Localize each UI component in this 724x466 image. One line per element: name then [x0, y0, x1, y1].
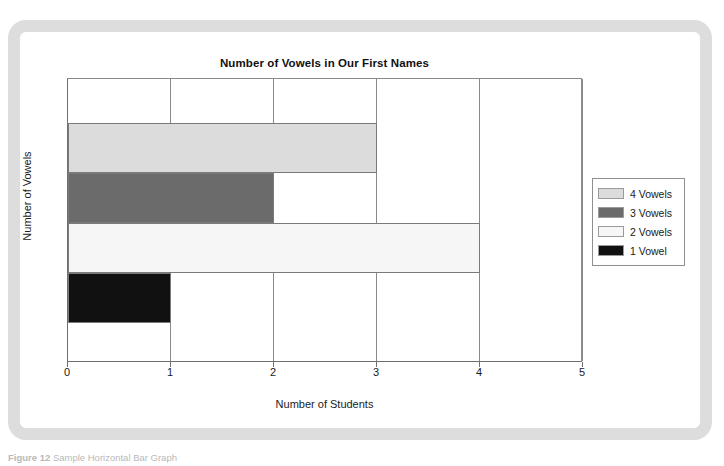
x-tick-label-4: 4	[464, 366, 494, 378]
legend-item-label: 2 Vowels	[630, 226, 672, 238]
figure-caption: Figure 12 Sample Horizontal Bar Graph	[8, 452, 177, 463]
x-tick-label-2: 2	[258, 366, 288, 378]
bar-row	[68, 123, 583, 173]
bar-3-vowels[interactable]	[68, 173, 274, 223]
x-tick-label-1: 1	[155, 366, 185, 378]
plot-area	[67, 78, 582, 362]
chart-title: Number of Vowels in Our First Names	[67, 57, 582, 69]
legend-item-4-vowels[interactable]: 4 Vowels	[598, 184, 679, 203]
x-tick-label-0: 0	[52, 366, 82, 378]
legend-swatch-icon	[598, 207, 624, 218]
legend-swatch-icon	[598, 188, 624, 199]
legend-swatch-icon	[598, 245, 624, 256]
legend-item-2-vowels[interactable]: 2 Vowels	[598, 222, 679, 241]
bar-1-vowel[interactable]	[68, 273, 171, 323]
legend-item-label: 1 Vowel	[630, 245, 667, 257]
bar-2-vowels[interactable]	[68, 223, 480, 273]
figure-canvas: Number of Vowels in Our First Names 0123…	[0, 0, 724, 466]
bar-4-vowels[interactable]	[68, 123, 377, 173]
chart-legend: 4 Vowels3 Vowels2 Vowels1 Vowel	[592, 178, 685, 266]
bar-row	[68, 273, 583, 323]
x-axis-title: Number of Students	[67, 398, 582, 410]
x-tick-label-3: 3	[361, 366, 391, 378]
legend-item-label: 4 Vowels	[630, 188, 672, 200]
legend-item-label: 3 Vowels	[630, 207, 672, 219]
figure-caption-number: Figure 12	[8, 452, 50, 463]
bar-row	[68, 223, 583, 273]
legend-swatch-icon	[598, 226, 624, 237]
y-axis-title: Number of Vowels	[21, 131, 33, 261]
x-tick-label-5: 5	[567, 366, 597, 378]
figure-caption-text: Sample Horizontal Bar Graph	[53, 452, 177, 463]
legend-item-3-vowels[interactable]: 3 Vowels	[598, 203, 679, 222]
bar-row	[68, 173, 583, 223]
legend-item-1-vowel[interactable]: 1 Vowel	[598, 241, 679, 260]
